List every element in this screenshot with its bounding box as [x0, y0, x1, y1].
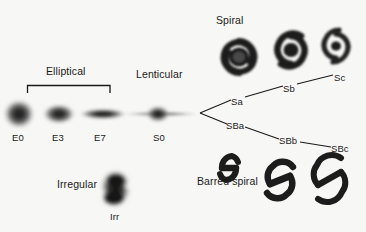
group-label-spiral: Spiral	[216, 15, 243, 26]
type-label-e7: E7	[94, 133, 106, 143]
type-label-e0: E0	[12, 133, 24, 143]
diagram-canvas	[0, 0, 366, 232]
type-label-e3: E3	[52, 133, 64, 143]
branch-label-sbb: SBb	[279, 136, 297, 146]
group-label-irregular: Irregular	[57, 179, 97, 190]
group-label-barred-spiral: Barred spiral	[197, 176, 258, 187]
branch-label-sbc: SBc	[331, 144, 349, 154]
group-label-elliptical: Elliptical	[46, 66, 86, 77]
branch-label-sa: Sa	[231, 97, 243, 107]
group-label-lenticular: Lenticular	[136, 69, 183, 80]
branch-label-sb: Sb	[283, 84, 295, 94]
elliptical-galaxy-e3	[42, 103, 77, 125]
type-label-s0: S0	[153, 133, 165, 143]
branch-label-sc: Sc	[334, 73, 345, 83]
elliptical-galaxy-e0	[2, 98, 36, 130]
hubble-tuning-fork-figure: Elliptical Lenticular Spiral Barred spir…	[0, 0, 366, 232]
type-label-irr: Irr	[110, 212, 119, 222]
branch-label-sba: SBa	[226, 121, 244, 131]
